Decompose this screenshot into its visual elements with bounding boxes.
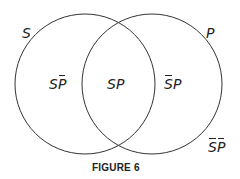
region-part-complement: S (164, 77, 173, 91)
region-part: P (173, 76, 181, 92)
circle-p (82, 14, 222, 154)
region-not-s-p: SP (164, 77, 181, 91)
set-label-s: S (22, 26, 31, 40)
set-label-p: P (206, 26, 214, 40)
region-part-complement: P (217, 140, 225, 154)
region-part-complement: S (208, 140, 217, 154)
circle-s (15, 14, 155, 154)
region-s-not-p: SP (49, 77, 66, 91)
region-s-and-p: SP (107, 77, 124, 91)
region-part-complement: P (58, 77, 66, 91)
region-not-s-not-p: SP (208, 140, 225, 154)
region-part: S (49, 76, 58, 92)
region-part: P (116, 76, 124, 92)
figure-caption: FIGURE 6 (92, 162, 140, 173)
region-part: S (107, 76, 116, 92)
